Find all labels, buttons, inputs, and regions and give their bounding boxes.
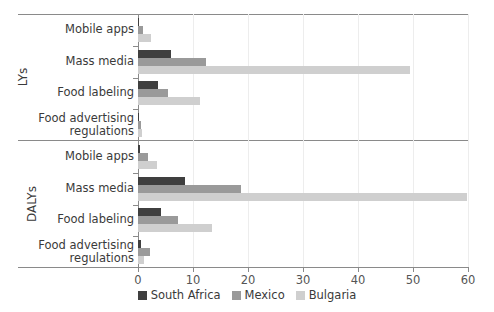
category-tick bbox=[133, 46, 138, 47]
bar bbox=[138, 256, 144, 264]
bar bbox=[138, 216, 178, 224]
bar bbox=[138, 89, 168, 97]
category-label: Mobile apps bbox=[18, 23, 134, 36]
bar bbox=[138, 58, 206, 66]
value-tick-mark bbox=[248, 267, 249, 272]
value-tick-label: 20 bbox=[241, 273, 256, 287]
bar bbox=[138, 145, 140, 153]
legend-label: South Africa bbox=[151, 288, 221, 302]
legend-swatch-icon bbox=[296, 291, 305, 300]
bar bbox=[138, 224, 212, 232]
bar bbox=[138, 177, 185, 185]
legend-swatch-icon bbox=[138, 291, 147, 300]
bar bbox=[138, 185, 241, 193]
value-tick-mark bbox=[193, 267, 194, 272]
bar-chart: Mobile appsMass mediaFood labelingFood a… bbox=[0, 0, 494, 312]
value-tick-label: 50 bbox=[406, 273, 421, 287]
value-tick-label: 30 bbox=[296, 273, 311, 287]
value-tick-label: 40 bbox=[351, 273, 366, 287]
bar bbox=[138, 121, 141, 129]
bar bbox=[138, 113, 139, 121]
gridline bbox=[413, 14, 414, 268]
gridline bbox=[248, 14, 249, 268]
bar bbox=[138, 18, 139, 26]
category-label: Mobile apps bbox=[18, 150, 134, 163]
chart-legend: South AfricaMexicoBulgaria bbox=[0, 288, 494, 302]
category-label: Food advertisingregulations bbox=[18, 112, 134, 138]
bar bbox=[138, 248, 150, 256]
category-tick bbox=[133, 78, 138, 79]
bar bbox=[138, 208, 161, 216]
bar bbox=[138, 129, 142, 137]
value-tick-mark bbox=[413, 267, 414, 272]
value-tick-mark bbox=[138, 267, 139, 272]
bar bbox=[138, 81, 158, 89]
bar bbox=[138, 193, 467, 201]
category-tick bbox=[133, 236, 138, 237]
legend-label: Bulgaria bbox=[309, 288, 357, 302]
category-tick bbox=[133, 109, 138, 110]
panel-label-lys: LYs bbox=[14, 70, 33, 84]
value-tick-label: 60 bbox=[461, 273, 476, 287]
legend-swatch-icon bbox=[232, 291, 241, 300]
bar bbox=[138, 66, 410, 74]
gridline bbox=[358, 14, 359, 268]
value-tick-label: 0 bbox=[134, 273, 141, 287]
panel-label-dalys: DALYs bbox=[14, 197, 50, 211]
legend-item[interactable]: South Africa bbox=[138, 288, 221, 302]
category-tick bbox=[133, 173, 138, 174]
gridline bbox=[303, 14, 304, 268]
legend-label: Mexico bbox=[245, 288, 285, 302]
bar bbox=[138, 161, 157, 169]
value-tick-mark bbox=[303, 267, 304, 272]
category-label: Mass media bbox=[18, 55, 134, 68]
category-label: Food labeling bbox=[18, 86, 134, 99]
category-label-column: Mobile appsMass mediaFood labelingFood a… bbox=[18, 14, 138, 268]
bar bbox=[138, 34, 151, 42]
bar bbox=[138, 26, 143, 34]
bar bbox=[138, 240, 141, 248]
legend-item[interactable]: Mexico bbox=[232, 288, 285, 302]
bar bbox=[138, 153, 148, 161]
value-tick-mark bbox=[468, 267, 469, 272]
bar bbox=[138, 50, 171, 58]
value-tick-label: 10 bbox=[186, 273, 201, 287]
legend-item[interactable]: Bulgaria bbox=[296, 288, 357, 302]
value-tick-mark bbox=[358, 267, 359, 272]
category-tick bbox=[133, 205, 138, 206]
plot-area bbox=[138, 14, 468, 268]
bar bbox=[138, 97, 200, 105]
gridline bbox=[468, 14, 469, 268]
category-label: Food advertisingregulations bbox=[18, 239, 134, 265]
